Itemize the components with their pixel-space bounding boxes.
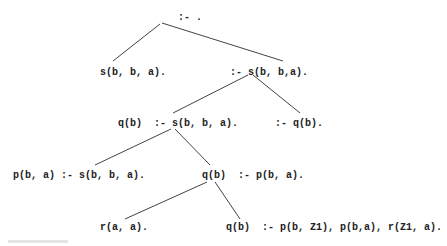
node-clause-p-s: p(b, a) :- s(b, b, a). <box>13 170 145 182</box>
tree-edge <box>215 182 240 219</box>
tree-edge <box>175 129 210 165</box>
node-root: :- . <box>178 12 202 24</box>
node-goal-q: :- q(b). <box>275 118 323 130</box>
node-clause-q-p: q(b) :- p(b, a). <box>202 170 304 182</box>
tree-edge <box>125 182 207 219</box>
tree-edge <box>95 129 171 165</box>
tree-edge <box>162 23 283 61</box>
tree-edge <box>113 24 160 61</box>
node-clause-q-prp: q(b) :- p(b, Z1), p(b,a), r(Z1, a). <box>226 222 442 234</box>
node-fact-s: s(b, b, a). <box>100 67 166 79</box>
tree-edge <box>253 75 300 113</box>
figure-caption-cropped <box>8 240 68 243</box>
node-goal-s: :- s(b, b,a). <box>230 67 308 79</box>
tree-edge <box>173 75 248 113</box>
node-fact-r: r(a, a). <box>100 222 148 234</box>
proof-tree-diagram: :- . s(b, b, a). :- s(b, b,a). q(b) :- s… <box>0 0 447 246</box>
node-clause-q-s: q(b) :- s(b, b, a). <box>118 118 238 130</box>
